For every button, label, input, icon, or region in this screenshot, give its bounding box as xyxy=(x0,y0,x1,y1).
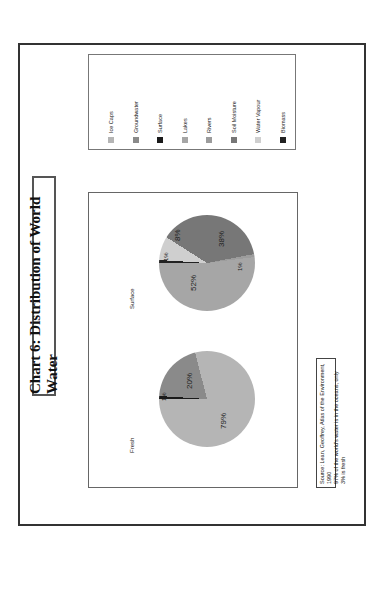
source-line-1: Source: Lean, Geoffrey, Atlas of the Env… xyxy=(319,362,333,484)
rotated-chart-canvas: Chart 6: Distribution of World Water Fre… xyxy=(20,45,364,524)
legend: Ice Caps Groundwater Surface Lakes River… xyxy=(88,54,296,150)
legend-item-soil-moisture: Soil Moisture xyxy=(222,61,247,143)
swatch-icon xyxy=(231,137,237,143)
source-line-2: 97% of the world's water is in the ocean… xyxy=(333,362,347,484)
swatch-icon xyxy=(108,137,114,143)
chart-title: Chart 6: Distribution of World Water xyxy=(32,176,56,396)
legend-item-lakes: Lakes xyxy=(173,61,198,143)
legend-item-biomass: Biomass xyxy=(271,61,296,143)
pct-fresh-groundwater: 20% xyxy=(185,373,194,389)
pct-surface-biomass: 1% xyxy=(163,252,169,261)
pie-title-surface: Surface xyxy=(129,288,135,309)
pie-title-fresh: Fresh xyxy=(129,438,135,453)
pct-surface-soil-moisture: 38% xyxy=(217,231,226,247)
legend-item-surface: Surface xyxy=(148,61,173,143)
pct-surface-lakes: 52% xyxy=(189,275,198,291)
swatch-icon xyxy=(133,137,139,143)
legend-item-ice-caps: Ice Caps xyxy=(99,61,124,143)
pct-surface-water-vapour: 8% xyxy=(173,229,182,241)
legend-item-groundwater: Groundwater xyxy=(124,61,149,143)
swatch-icon xyxy=(255,137,261,143)
pct-fresh-icecaps: 79% xyxy=(219,413,228,429)
swatch-icon xyxy=(157,137,163,143)
legend-item-water-vapour: Water Vapour xyxy=(246,61,271,143)
legend-item-rivers: Rivers xyxy=(197,61,222,143)
source-note: Source: Lean, Geoffrey, Atlas of the Env… xyxy=(316,358,336,488)
pie-fresh xyxy=(159,351,255,447)
swatch-icon xyxy=(280,137,286,143)
pct-fresh-surface: 1% xyxy=(161,392,167,401)
swatch-icon xyxy=(206,137,212,143)
chart-frame: Chart 6: Distribution of World Water Fre… xyxy=(18,43,366,526)
pct-surface-rivers: 1% xyxy=(237,262,243,271)
plot-area: Fresh 79% 20% 1% Surface 52% 38% 8% 1% 1… xyxy=(88,192,298,488)
swatch-icon xyxy=(182,137,188,143)
